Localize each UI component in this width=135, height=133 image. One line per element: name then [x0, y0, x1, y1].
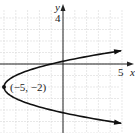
x-axis-label: x [129, 66, 135, 78]
vertex-label: (−5, −2) [10, 81, 47, 94]
vertex-point [2, 85, 6, 89]
y-tick-label: 4 [55, 12, 61, 24]
grid [0, 10, 122, 133]
parabola-chart: y 4 5 x (−5, −2) [0, 0, 135, 133]
y-axis-arrow-icon [61, 4, 66, 11]
x-tick-label: 5 [118, 66, 124, 78]
